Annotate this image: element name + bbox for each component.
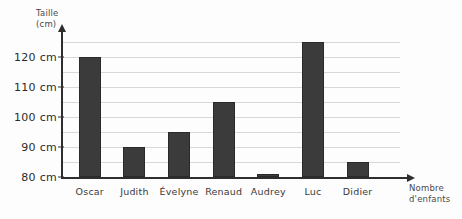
y-axis-line	[61, 31, 63, 179]
bar	[79, 57, 101, 177]
bar	[213, 102, 235, 177]
gridline	[63, 57, 400, 58]
x-tick-label: Luc	[305, 186, 322, 197]
y-tick-label: 110 cm	[1, 81, 57, 94]
gridline	[63, 87, 400, 88]
y-tick-mark	[58, 177, 64, 178]
x-axis-arrow-icon	[407, 174, 415, 182]
x-tick-label: Évelyne	[160, 186, 199, 197]
plot-area	[63, 33, 400, 177]
gridline	[63, 72, 400, 73]
bar	[123, 147, 145, 177]
x-axis-title: Nombre d'enfants	[409, 183, 451, 204]
y-tick-mark	[58, 117, 64, 118]
y-tick-mark	[58, 87, 64, 88]
gridline	[63, 42, 400, 43]
x-tick-label: Oscar	[76, 186, 104, 197]
y-tick-mark	[58, 57, 64, 58]
y-axis-arrow-icon	[58, 24, 66, 32]
y-tick-mark	[58, 147, 64, 148]
x-tick-label: Didier	[343, 186, 373, 197]
x-axis-line	[61, 177, 409, 179]
x-tick-label: Judith	[120, 186, 148, 197]
x-tick-label: Renaud	[205, 186, 242, 197]
y-tick-label: 120 cm	[1, 51, 57, 64]
y-tick-label: 100 cm	[1, 111, 57, 124]
bar	[168, 132, 190, 177]
bar	[347, 162, 369, 177]
chart-canvas: Taille (cm) Nombre d'enfants 120 cm110 c…	[0, 0, 462, 219]
y-tick-label: 90 cm	[1, 141, 57, 154]
x-tick-label: Audrey	[251, 186, 286, 197]
bar	[302, 42, 324, 177]
y-tick-label: 80 cm	[1, 171, 57, 184]
y-tick-labels: 120 cm110 cm100 cm90 cm80 cm	[0, 0, 57, 219]
